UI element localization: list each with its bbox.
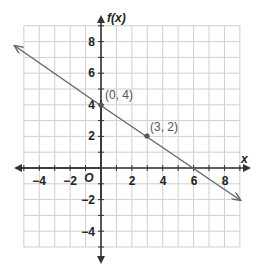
y-axis-label: f(x) xyxy=(107,11,126,25)
y-tick-labels: 8 6 4 2 −2 −4 xyxy=(81,35,95,239)
coordinate-plane: −4 −2 2 4 6 8 8 6 4 2 −2 −4 O f(x) x (0,… xyxy=(0,0,265,272)
x-tick-label: 2 xyxy=(129,174,136,188)
y-tick-label: −2 xyxy=(81,193,95,207)
x-tick-labels: −4 −2 2 4 6 8 xyxy=(32,174,229,188)
x-tick-label: −4 xyxy=(32,174,46,188)
point-0-4 xyxy=(98,102,103,107)
grid xyxy=(24,26,240,247)
y-tick-label: 2 xyxy=(88,129,95,143)
y-tick-label: 6 xyxy=(88,66,95,80)
axes xyxy=(16,17,249,262)
origin-label: O xyxy=(84,171,94,185)
point-3-2 xyxy=(144,133,149,138)
point-label-0-4: (0, 4) xyxy=(105,88,133,102)
x-tick-label: −2 xyxy=(63,174,77,188)
y-tick-label: 8 xyxy=(88,35,95,49)
x-axis-label: x xyxy=(240,152,249,166)
function-line xyxy=(15,46,100,105)
point-label-3-2: (3, 2) xyxy=(150,120,178,134)
y-tick-label: −4 xyxy=(81,225,95,239)
x-tick-label: 6 xyxy=(191,174,198,188)
x-tick-label: 8 xyxy=(222,174,229,188)
x-tick-label: 4 xyxy=(160,174,167,188)
